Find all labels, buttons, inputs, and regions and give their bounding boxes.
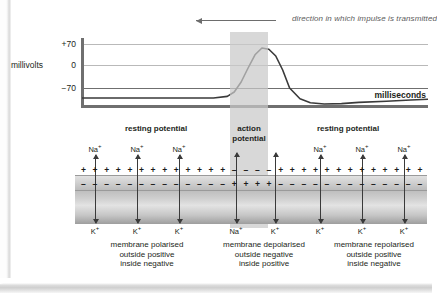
membrane-charge-outer-9: + xyxy=(185,166,190,174)
phase-label-action-line1: action xyxy=(224,124,274,134)
membrane-caption-polarised: membrane polarised outside positive insi… xyxy=(82,240,212,269)
caption-2-line-2: outside negative xyxy=(206,250,322,260)
membrane-charge-outer-28: + xyxy=(406,166,411,174)
membrane-charge-inner-8: – xyxy=(174,180,179,188)
ion-label-below-3: Na+ xyxy=(224,225,248,236)
membrane-charge-outer-24: + xyxy=(359,166,364,174)
scan-page-edge-left xyxy=(6,0,11,282)
ion-label-below-2: K+ xyxy=(167,225,191,236)
membrane-charge-outer-19: + xyxy=(301,166,306,174)
membrane-charge-inner-19: – xyxy=(301,180,306,188)
arrowhead-down-icon-6 xyxy=(360,219,366,224)
membrane-charge-outer-4: + xyxy=(127,166,132,174)
membrane-charge-inner-7: – xyxy=(162,180,167,188)
arrowhead-down-icon-0 xyxy=(93,219,99,224)
membrane-charge-outer-5: + xyxy=(139,166,144,174)
caption-1-line-2: outside positive xyxy=(82,250,212,260)
ion-label-below-1: K+ xyxy=(125,225,149,236)
ion-label-below-4: K+ xyxy=(263,225,287,236)
membrane-charge-inner-24: – xyxy=(359,180,364,188)
membrane-charge-inner-22: – xyxy=(336,180,341,188)
membrane-charge-outer-6: + xyxy=(151,166,156,174)
caption-1-line-3: inside negative xyxy=(82,259,212,269)
membrane-charge-inner-28: – xyxy=(406,180,411,188)
membrane-charge-inner-18: – xyxy=(290,180,295,188)
membrane-charge-inner-29: – xyxy=(417,180,422,188)
phase-label-action: action potential xyxy=(224,124,274,143)
membrane-charge-inner-3: – xyxy=(116,180,121,188)
caption-3-line-2: outside positive xyxy=(316,250,432,260)
membrane-outer-line xyxy=(75,175,427,176)
membrane-charge-outer-15: – xyxy=(255,166,260,174)
membrane-charge-inner-15: + xyxy=(255,180,260,188)
arrowhead-up-icon-7 xyxy=(402,154,408,159)
arrowhead-down-icon-5 xyxy=(318,219,324,224)
ion-label-above-1: Na+ xyxy=(125,143,149,154)
phase-label-resting-left: resting potential xyxy=(86,124,226,134)
arrowhead-up-icon-6 xyxy=(360,154,366,159)
membrane-charge-inner-23: – xyxy=(348,180,353,188)
arrowhead-down-icon-2 xyxy=(177,219,183,224)
arrowhead-up-icon-4 xyxy=(273,152,279,157)
membrane-charge-outer-2: + xyxy=(104,166,109,174)
membrane-charge-inner-21: – xyxy=(325,180,330,188)
phase-label-action-line2: potential xyxy=(224,134,274,144)
caption-3-line-1: membrane repolarised xyxy=(316,240,432,250)
membrane-charge-outer-16: – xyxy=(267,166,272,174)
membrane-charge-outer-20: + xyxy=(313,166,318,174)
membrane-charge-inner-16: + xyxy=(267,180,272,188)
membrane-charge-inner-9: – xyxy=(185,180,190,188)
y-tick-zero: 0 xyxy=(36,60,76,70)
ion-label-above-4: Na+ xyxy=(350,143,374,154)
left-arrow-icon xyxy=(196,20,276,21)
membrane-charge-inner-10: – xyxy=(197,180,202,188)
membrane-charge-outer-3: + xyxy=(116,166,121,174)
membrane-charge-inner-14: + xyxy=(243,180,248,188)
membrane-charge-inner-17: – xyxy=(278,180,283,188)
membrane-charge-outer-18: + xyxy=(290,166,295,174)
membrane-charge-outer-22: + xyxy=(336,166,341,174)
ion-flow-arrow-4 xyxy=(275,153,276,223)
membrane-charge-inner-4: – xyxy=(127,180,132,188)
phase-label-resting-right: resting potential xyxy=(278,124,418,134)
membrane-charge-outer-26: + xyxy=(383,166,388,174)
membrane-charge-outer-8: + xyxy=(174,166,179,174)
ion-flow-arrow-5 xyxy=(320,155,321,223)
caption-2-line-1: membrane depolarised xyxy=(206,240,322,250)
membrane-charge-outer-7: + xyxy=(162,166,167,174)
arrowhead-down-icon-7 xyxy=(402,219,408,224)
membrane-caption-depolarised: membrane depolarised outside negative in… xyxy=(206,240,322,269)
arrowhead-up-icon-5 xyxy=(318,154,324,159)
ion-label-above-3: Na+ xyxy=(308,143,332,154)
ion-label-above-2: Na+ xyxy=(167,143,191,154)
membrane-charge-outer-10: + xyxy=(197,166,202,174)
membrane-charge-inner-5: – xyxy=(139,180,144,188)
caption-3-line-3: inside negative xyxy=(316,259,432,269)
y-tick-minus70: −70 xyxy=(36,83,76,93)
membrane-charge-outer-29: + xyxy=(417,166,422,174)
arrowhead-down-icon-3 xyxy=(234,219,240,224)
impulse-direction-caption: direction in which impulse is transmitte… xyxy=(292,14,437,23)
arrowhead-down-icon-4 xyxy=(273,219,279,224)
membrane-charge-inner-12: – xyxy=(220,180,225,188)
membrane-charge-outer-1: + xyxy=(93,166,98,174)
membrane-charge-inner-20: – xyxy=(313,180,318,188)
ion-label-below-5: K+ xyxy=(308,225,332,236)
membrane-charge-inner-26: – xyxy=(383,180,388,188)
arrowhead-up-icon-2 xyxy=(177,154,183,159)
membrane-charge-inner-2: – xyxy=(104,180,109,188)
impulse-direction-row: direction in which impulse is transmitte… xyxy=(196,14,426,28)
arrowhead-up-icon-0 xyxy=(93,154,99,159)
membrane-charge-outer-13: – xyxy=(232,166,237,174)
caption-2-line-3: inside positive xyxy=(206,259,322,269)
membrane-charge-outer-11: + xyxy=(209,166,214,174)
membrane-charge-inner-1: – xyxy=(93,180,98,188)
y-tick-plus70: +70 xyxy=(36,39,76,49)
ion-label-below-0: K+ xyxy=(83,225,107,236)
membrane-charge-inner-0: – xyxy=(81,180,86,188)
membrane-caption-repolarised: membrane repolarised outside positive in… xyxy=(316,240,432,269)
membrane-inner-line xyxy=(75,190,427,191)
arrowhead-down-icon-1 xyxy=(135,219,141,224)
ion-label-above-5: Na+ xyxy=(392,143,416,154)
